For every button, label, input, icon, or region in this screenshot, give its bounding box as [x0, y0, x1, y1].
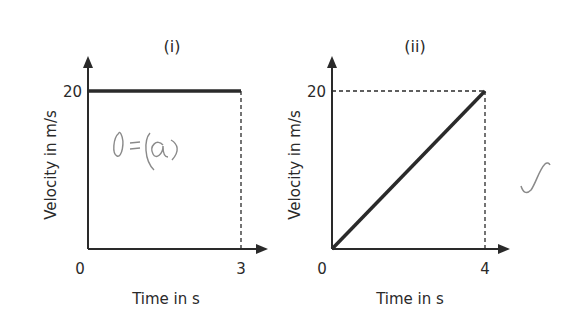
chart-i-y-tick-20: 20 [63, 83, 82, 101]
chart-ii-y-arrow-icon [327, 56, 337, 68]
chart-ii: (ii) 20 0 4 Time in s Velocity in m/s [286, 37, 510, 308]
chart-i-y-arrow-icon [83, 56, 93, 68]
chart-i-x-tick-3: 3 [236, 260, 246, 278]
chart-i-x-label: Time in s [131, 290, 200, 308]
chart-i-title: (i) [164, 37, 181, 56]
handwritten-annotation [114, 132, 177, 170]
chart-ii-y-label: Velocity in m/s [286, 110, 304, 220]
chart-i-x-arrow-icon [256, 244, 268, 254]
chart-ii-title: (ii) [404, 37, 425, 56]
checkmark-icon [521, 163, 550, 193]
figure: (i) 20 0 3 Time in s Velocity in m/s (ii… [0, 0, 578, 324]
chart-ii-x-label: Time in s [375, 290, 444, 308]
chart-i-y-label: Velocity in m/s [42, 110, 60, 220]
chart-i-x-tick-0: 0 [75, 260, 85, 278]
chart-ii-x-arrow-icon [498, 244, 510, 254]
chart-ii-x-tick-4: 4 [480, 260, 490, 278]
chart-ii-y-tick-20: 20 [307, 83, 326, 101]
chart-i: (i) 20 0 3 Time in s Velocity in m/s [42, 37, 268, 308]
chart-ii-x-tick-0: 0 [317, 260, 327, 278]
chart-ii-series-line [332, 91, 485, 249]
